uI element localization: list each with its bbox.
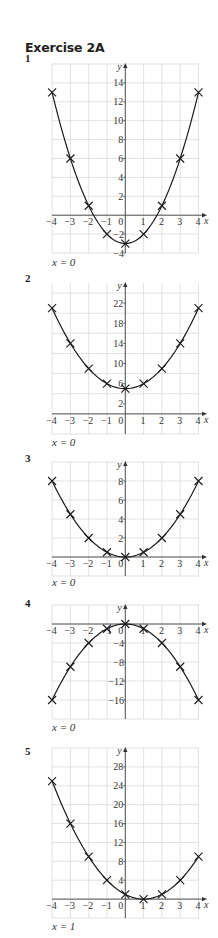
svg-text:4: 4 [196, 415, 201, 426]
svg-text:y: y [116, 280, 122, 291]
svg-text:2: 2 [118, 191, 123, 202]
svg-text:3: 3 [177, 558, 182, 569]
svg-text:−4: −4 [46, 216, 57, 227]
svg-text:y: y [116, 459, 122, 470]
svg-text:−2: −2 [83, 415, 94, 426]
svg-text:2: 2 [159, 415, 164, 426]
svg-text:1: 1 [141, 216, 146, 227]
svg-text:x: x [203, 624, 209, 635]
svg-text:−4: −4 [113, 638, 124, 649]
parabola-chart: yx−4−3−2−101234481216202428 [0, 744, 218, 924]
svg-text:−1: −1 [101, 625, 112, 636]
svg-text:−2: −2 [83, 625, 94, 636]
svg-text:x: x [203, 215, 209, 226]
svg-text:8: 8 [118, 856, 123, 867]
svg-text:x: x [203, 557, 209, 568]
svg-text:2: 2 [159, 625, 164, 636]
svg-text:−2: −2 [113, 229, 124, 240]
svg-text:14: 14 [113, 77, 123, 88]
svg-text:−4: −4 [113, 248, 124, 259]
svg-text:−8: −8 [113, 657, 124, 668]
svg-text:−3: −3 [64, 415, 75, 426]
svg-text:2: 2 [159, 900, 164, 911]
svg-text:0: 0 [118, 216, 123, 227]
svg-text:4: 4 [196, 900, 201, 911]
svg-text:3: 3 [177, 900, 182, 911]
svg-text:2: 2 [159, 558, 164, 569]
svg-text:y: y [116, 61, 122, 72]
svg-text:−3: −3 [64, 900, 75, 911]
svg-text:8: 8 [118, 476, 123, 487]
parabola-chart: yx−4−3−2−1012342468 [0, 458, 218, 580]
svg-text:−3: −3 [64, 216, 75, 227]
svg-text:−3: −3 [64, 625, 75, 636]
svg-text:2: 2 [118, 533, 123, 544]
svg-text:−12: −12 [108, 676, 124, 687]
svg-text:−1: −1 [101, 415, 112, 426]
svg-text:2: 2 [159, 216, 164, 227]
svg-text:−4: −4 [46, 415, 57, 426]
svg-text:1: 1 [141, 415, 146, 426]
svg-text:8: 8 [118, 134, 123, 145]
svg-text:4: 4 [118, 172, 123, 183]
svg-text:4: 4 [196, 558, 201, 569]
svg-text:22: 22 [113, 298, 123, 309]
svg-text:14: 14 [113, 338, 123, 349]
svg-text:4: 4 [118, 875, 123, 886]
svg-text:24: 24 [113, 780, 123, 791]
svg-text:−2: −2 [83, 558, 94, 569]
svg-text:10: 10 [113, 358, 123, 369]
svg-text:−2: −2 [83, 900, 94, 911]
svg-text:−1: −1 [101, 558, 112, 569]
svg-text:12: 12 [113, 837, 123, 848]
page-title: Exercise 2A [25, 40, 104, 55]
svg-text:20: 20 [113, 799, 123, 810]
svg-text:−1: −1 [101, 216, 112, 227]
svg-text:12: 12 [113, 96, 123, 107]
parabola-chart: yx−4−3−2−1012342610141822 [0, 278, 218, 440]
svg-text:3: 3 [177, 216, 182, 227]
svg-text:y: y [116, 745, 122, 756]
svg-text:0: 0 [118, 415, 123, 426]
svg-text:4: 4 [196, 625, 201, 636]
y-axis-arrow-icon [123, 282, 127, 287]
svg-text:3: 3 [177, 415, 182, 426]
parabola-chart: yx−4−3−2−101234−4−8−12−16 [0, 600, 218, 724]
svg-text:−4: −4 [46, 558, 57, 569]
svg-text:−1: −1 [101, 900, 112, 911]
svg-text:−16: −16 [108, 695, 124, 706]
svg-text:16: 16 [113, 818, 123, 829]
svg-text:x: x [203, 414, 209, 425]
svg-text:−3: −3 [64, 558, 75, 569]
svg-text:−2: −2 [83, 216, 94, 227]
svg-text:−4: −4 [46, 625, 57, 636]
svg-text:1: 1 [141, 558, 146, 569]
svg-text:x: x [203, 899, 209, 910]
svg-text:6: 6 [118, 495, 123, 506]
svg-text:4: 4 [196, 216, 201, 227]
svg-text:4: 4 [118, 514, 123, 525]
parabola-chart: yx−4−3−2−101234−4−22468101214 [0, 60, 218, 260]
svg-text:3: 3 [177, 625, 182, 636]
svg-text:y: y [116, 602, 122, 613]
svg-text:18: 18 [113, 318, 123, 329]
svg-text:0: 0 [118, 900, 123, 911]
svg-text:2: 2 [118, 398, 123, 409]
svg-text:28: 28 [113, 761, 123, 772]
svg-text:6: 6 [118, 153, 123, 164]
svg-text:−4: −4 [46, 900, 57, 911]
svg-text:10: 10 [113, 115, 123, 126]
